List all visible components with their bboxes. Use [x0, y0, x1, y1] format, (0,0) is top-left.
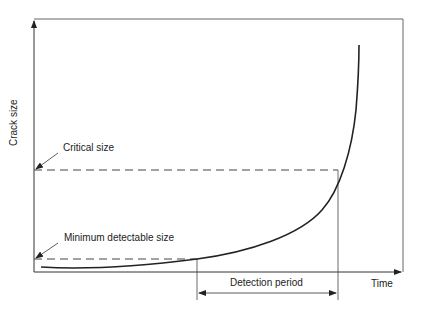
- min-detectable-leader: [36, 243, 58, 258]
- crack-growth-diagram: [0, 0, 421, 314]
- critical-size-leader: [36, 153, 58, 169]
- critical-size-label: Critical size: [63, 143, 114, 153]
- detection-period-label: Detection period: [230, 278, 303, 288]
- x-axis-label: Time: [371, 279, 393, 289]
- y-axis-label: Crack size: [9, 99, 19, 146]
- min-detectable-size-label: Minimum detectable size: [64, 233, 174, 243]
